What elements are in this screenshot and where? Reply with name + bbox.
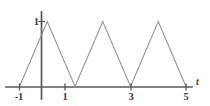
x-axis-label: t	[196, 76, 200, 87]
triangular-wave-figure: -1 1 3 5 1 t	[0, 0, 210, 106]
plot-area: -1 1 3 5 1 t	[0, 0, 210, 106]
x-tick-label-3: 3	[128, 91, 133, 102]
x-tick-label-5: 5	[183, 91, 188, 102]
triangular-wave-curve	[20, 22, 187, 87]
y-tick-label-1: 1	[34, 16, 39, 27]
x-tick-label-1: 1	[62, 91, 67, 102]
x-tick-label-neg1: -1	[15, 91, 24, 102]
